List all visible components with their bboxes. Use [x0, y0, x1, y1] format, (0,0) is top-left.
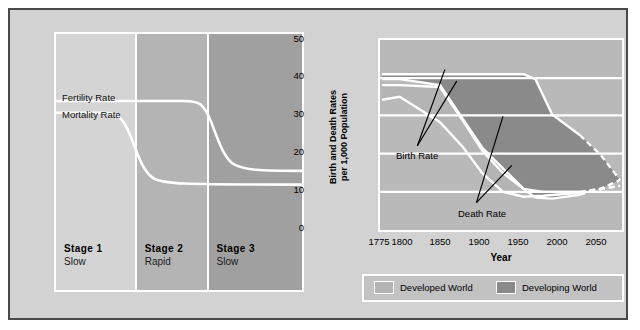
demographic-transition-figure: Population Growth Stage 1 Slow Stage 2 R…: [0, 0, 640, 330]
fertility-rate-label: Fertility Rate: [62, 92, 115, 103]
y-axis-label-line-2: per 1,000 Population: [339, 93, 349, 181]
x-tick-2000: 2000: [542, 236, 572, 247]
y-tick-40: 40: [284, 70, 304, 81]
x-tick-2050: 2050: [581, 236, 611, 247]
legend-label-developing: Developing World: [522, 282, 597, 293]
population-growth-panel: Population Growth Stage 1 Slow Stage 2 R…: [20, 18, 310, 310]
y-tick-30: 30: [284, 108, 304, 119]
death-rate-annotation: Death Rate: [458, 208, 506, 219]
legend-swatch-developing: [496, 281, 516, 294]
x-tick-1800: 1800: [387, 236, 417, 247]
chart-legend: Developed World Developing World: [362, 274, 624, 302]
figure-frame: Population Growth Stage 1 Slow Stage 2 R…: [8, 8, 628, 320]
transition-curves: [56, 34, 302, 290]
stage-grid: Stage 1 Slow Stage 2 Rapid Stage 3 Slow: [54, 32, 304, 292]
mortality-rate-label: Mortality Rate: [62, 109, 121, 120]
y-tick-50: 50: [284, 33, 304, 44]
legend-label-developed: Developed World: [400, 282, 473, 293]
legend-item-developing: Developing World: [496, 281, 597, 294]
birth-rate-annotation: Birth Rate: [396, 150, 438, 161]
y-tick-10: 10: [284, 184, 304, 195]
x-tick-1950: 1950: [503, 236, 533, 247]
legend-swatch-developed: [374, 281, 394, 294]
y-tick-0: 0: [284, 222, 304, 233]
plot-area: Birth Rate Death Rate: [378, 38, 624, 232]
y-tick-20: 20: [284, 146, 304, 157]
mortality-rate-curve: [56, 113, 302, 185]
y-axis-label-line-1: Birth and Death Rates: [328, 90, 338, 184]
legend-item-developed: Developed World: [374, 281, 473, 294]
birth-death-axis-label: Birth and Death Rates per 1,000 Populati…: [328, 72, 350, 202]
x-tick-1850: 1850: [425, 236, 455, 247]
x-tick-1900: 1900: [464, 236, 494, 247]
birth-death-rates-panel: Birth and Death Rates per 1,000 Populati…: [310, 18, 620, 310]
year-axis-label: Year: [378, 252, 624, 263]
rates-chart-svg: [380, 40, 622, 230]
